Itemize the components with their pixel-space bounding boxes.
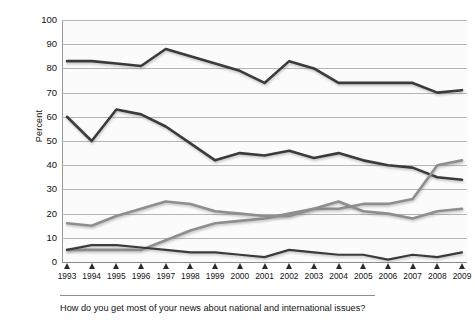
x-tick-marker [212,263,218,269]
y-tick-label: 50 [5,136,57,146]
gridline-90 [62,44,467,45]
plot-area [62,20,467,262]
x-axis: 1993199419951996199719981999200020012002… [62,262,467,292]
x-tick-marker [262,263,268,269]
x-tick-marker [385,263,391,269]
x-tick-marker [360,263,366,269]
y-tick-label: 70 [5,88,57,98]
y-tick-label: 40 [5,160,57,170]
x-tick-marker [113,263,119,269]
y-axis-tick-labels: 1009080706050403020100 [0,0,57,282]
y-tick-label: 30 [5,184,57,194]
gridline-80 [62,68,467,69]
x-tick-marker [237,263,243,269]
x-tick-label: 2009 [447,271,475,281]
x-tick-marker [163,263,169,269]
x-tick-marker [64,263,70,269]
y-tick-label: 90 [5,39,57,49]
x-tick-marker [434,263,440,269]
chart-container: Percent 1009080706050403020100 199319941… [0,0,475,326]
gridline-50 [62,141,467,142]
gridline-30 [62,189,467,190]
x-tick-marker [286,263,292,269]
gridline-40 [62,165,467,166]
caption-divider [60,295,375,296]
y-tick-label: 0 [5,257,57,267]
chart-caption: How do you get most of your news about n… [60,303,470,315]
x-tick-marker [138,263,144,269]
gridline-60 [62,117,467,118]
x-tick-marker [459,263,465,269]
x-tick-marker [89,263,95,269]
y-tick-label: 60 [5,112,57,122]
gridline-70 [62,93,467,94]
x-tick-marker [336,263,342,269]
gridline-100 [62,20,467,21]
y-tick-label: 10 [5,233,57,243]
y-tick-label: 100 [5,15,57,25]
gridline-10 [62,238,467,239]
gridline-20 [62,214,467,215]
y-tick-label: 80 [5,63,57,73]
x-tick-marker [311,263,317,269]
x-tick-marker [410,263,416,269]
x-tick-marker [187,263,193,269]
y-tick-label: 20 [5,209,57,219]
